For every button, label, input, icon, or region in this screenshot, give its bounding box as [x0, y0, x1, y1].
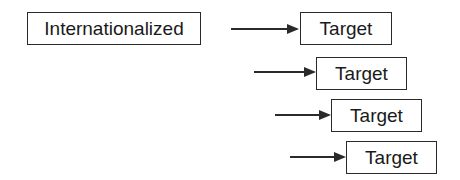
target-label: Target	[365, 147, 418, 169]
target-label: Target	[335, 63, 388, 85]
source-box: Internationalized	[27, 12, 201, 45]
target-box-1: Target	[300, 12, 392, 45]
target-label: Target	[350, 105, 403, 127]
target-label: Target	[320, 18, 373, 40]
target-box-2: Target	[316, 57, 407, 90]
arrow-icon	[275, 114, 329, 116]
source-label: Internationalized	[44, 18, 183, 40]
target-box-3: Target	[331, 99, 422, 132]
target-box-4: Target	[346, 141, 437, 174]
arrow-icon	[290, 156, 344, 158]
arrow-icon	[254, 71, 314, 73]
arrow-icon	[231, 28, 297, 30]
